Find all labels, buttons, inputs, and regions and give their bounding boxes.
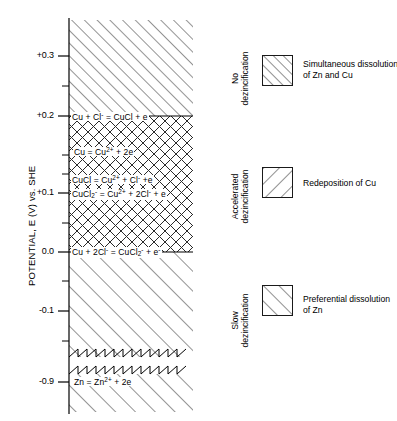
- legend-swatch-redeposition-cu: [262, 167, 293, 198]
- region-label-line2: dezincification: [240, 51, 250, 105]
- legend-label-line1: Preferential dissolution: [303, 294, 390, 304]
- legend-label-line1: Redeposition of Cu: [303, 178, 376, 188]
- region-label-accelerated-dezincification: Accelerated dezincification: [230, 169, 251, 223]
- region-label-line2: dezincification: [240, 169, 250, 223]
- y-tick-label-0: +0.3: [20, 51, 54, 60]
- region-label-line1: Accelerated: [230, 174, 240, 219]
- region-label-line1: Slow: [230, 311, 240, 330]
- y-axis-title: POTENTIAL, E (V) vs. SHE: [26, 166, 37, 286]
- legend-swatch-simultaneous-dissolution: [262, 55, 293, 86]
- y-tick-label-2: +0.1: [20, 188, 54, 197]
- y-tick-label-4: -0.1: [20, 306, 54, 315]
- legend-label-line1: Simultaneous dissolution: [303, 59, 397, 69]
- region-fill-no-dezincification: [69, 20, 193, 116]
- figure-root: POTENTIAL, E (V) vs. SHE +0.3 +0.2 +0.1 …: [0, 0, 397, 421]
- region-label-line1: No: [230, 73, 240, 84]
- equation-zn-zn2: Zn = Zn2+ + 2e: [73, 377, 132, 386]
- legend-label-simultaneous-dissolution: Simultaneous dissolution of Zn and Cu: [303, 59, 397, 81]
- equation-cu-cl-cucl: Cu + Cl- = CuCl + e: [71, 112, 149, 121]
- legend-label-preferential-dissolution: Preferential dissolution of Zn: [303, 294, 390, 316]
- y-tick-label-3: 0.0: [20, 247, 54, 256]
- legend-label-redeposition-cu: Redeposition of Cu: [303, 178, 376, 189]
- y-axis-major-ticks: [58, 56, 69, 382]
- equation-cu-cu2: Cu = Cu2+ + 2e: [73, 147, 134, 156]
- legend-label-line2: of Zn and Cu: [303, 70, 353, 80]
- axis-break-lower: [69, 366, 186, 374]
- region-fill-slow-dezincification: [69, 252, 193, 357]
- legend-label-line2: of Zn: [303, 305, 323, 315]
- region-label-no-dezincification: No dezincification: [230, 51, 251, 105]
- equation-cucl-cu2: CuCl = Cu2+ + Cl- +e: [71, 175, 154, 184]
- region-label-slow-dezincification: Slow dezincification: [230, 293, 251, 347]
- legend-swatch-preferential-dissolution: [262, 285, 293, 316]
- y-axis-minor-ticks: [62, 86, 69, 341]
- region-label-line2: dezincification: [240, 293, 250, 347]
- equation-cucl2-cu2: CuCl2- = Cu2+ + 2Cl- + e: [71, 189, 167, 200]
- y-tick-label-1: +0.2: [20, 111, 54, 120]
- equation-cu-2cl-cucl2: Cu + 2Cl- = CuCl2- + e-: [71, 247, 162, 258]
- y-tick-label-5: -0.9: [20, 377, 54, 386]
